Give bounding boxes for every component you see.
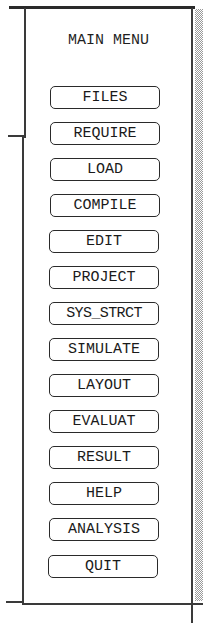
menu-button-sys-strct[interactable]: SYS_STRCT: [49, 302, 159, 325]
main-menu: FILES REQUIRE LOAD COMPILE EDIT PROJECT …: [0, 0, 207, 623]
menu-button-compile[interactable]: COMPILE: [50, 194, 160, 217]
menu-button-project[interactable]: PROJECT: [49, 266, 159, 289]
menu-button-require[interactable]: REQUIRE: [50, 122, 160, 145]
menu-button-help[interactable]: HELP: [49, 482, 159, 505]
menu-button-layout[interactable]: LAYOUT: [49, 374, 159, 397]
menu-button-edit[interactable]: EDIT: [49, 230, 159, 253]
menu-button-quit[interactable]: QUIT: [48, 555, 158, 578]
menu-button-evaluat[interactable]: EVALUAT: [49, 410, 159, 433]
menu-button-load[interactable]: LOAD: [50, 158, 160, 181]
menu-button-result[interactable]: RESULT: [49, 446, 159, 469]
menu-button-analysis[interactable]: ANALYSIS: [49, 518, 159, 541]
menu-button-files[interactable]: FILES: [50, 86, 160, 109]
menu-button-simulate[interactable]: SIMULATE: [49, 338, 159, 361]
